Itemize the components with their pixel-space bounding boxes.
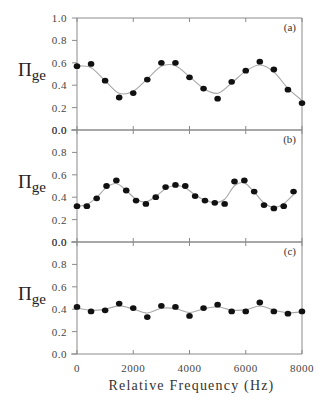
data-point — [202, 198, 209, 204]
data-point — [200, 86, 207, 92]
data-point — [221, 201, 228, 207]
data-point — [228, 309, 235, 315]
data-point — [242, 309, 249, 315]
data-point — [162, 184, 169, 190]
data-point — [261, 202, 268, 208]
y-tick-label: 0.4 — [52, 303, 67, 315]
panel-label: (a) — [284, 21, 297, 34]
panel-label: (b) — [283, 133, 296, 146]
panel-c: 0.00.20.40.60.80.0Πge(c) — [18, 236, 305, 360]
data-point — [299, 309, 306, 315]
y-tick-label: 0.0 — [52, 348, 67, 360]
data-point — [290, 189, 297, 195]
data-point — [182, 183, 189, 189]
fit-curve — [77, 64, 302, 100]
y-tick-label: 0.8 — [52, 34, 67, 46]
data-point — [200, 305, 207, 311]
y-tick-label: 0.2 — [52, 326, 67, 338]
data-point — [133, 198, 140, 204]
y-tick-label: 0.8 — [52, 258, 67, 270]
y-tick-label: 0.6 — [52, 281, 67, 293]
data-point — [172, 182, 179, 188]
data-point — [271, 309, 278, 315]
x-tick-label: 0 — [74, 362, 80, 374]
data-point — [93, 195, 100, 201]
data-point — [74, 203, 81, 209]
data-point — [271, 206, 278, 212]
data-point — [102, 78, 109, 84]
y-tick-label: 0.2 — [52, 214, 67, 226]
data-point — [242, 68, 249, 74]
x-tick-label: 2000 — [121, 362, 145, 374]
data-point — [214, 302, 221, 308]
data-point — [231, 179, 238, 185]
data-point — [299, 100, 306, 106]
data-point — [158, 303, 165, 309]
data-point — [74, 63, 81, 69]
data-point — [88, 61, 95, 67]
x-tick-label: 8000 — [290, 362, 314, 374]
y-tick-label: 0.6 — [52, 57, 67, 69]
data-point — [257, 300, 264, 306]
data-point — [143, 201, 150, 207]
chart-figure: 0.00.20.40.60.81.0Πge(a)0.00.20.40.60.80… — [0, 0, 329, 404]
data-point — [280, 203, 287, 209]
y-tick-label: 0.2 — [52, 102, 67, 114]
y-axis-title: Πge — [18, 59, 46, 83]
panel-label: (c) — [284, 245, 297, 258]
data-point — [172, 304, 179, 310]
data-point — [251, 189, 258, 195]
data-point — [74, 304, 81, 310]
data-point — [192, 193, 199, 199]
data-point — [102, 307, 109, 313]
data-point — [144, 314, 151, 320]
x-tick-label: 6000 — [234, 362, 258, 374]
data-point — [116, 95, 123, 101]
panel-b: 0.00.20.40.60.80.0Πge(b) — [18, 124, 302, 248]
data-point — [285, 311, 292, 317]
y-tick-label: 0.6 — [52, 169, 67, 181]
y-tick-label: 0.4 — [52, 191, 67, 203]
data-point — [172, 60, 179, 66]
stacked-scatter-plot: 0.00.20.40.60.81.0Πge(a)0.00.20.40.60.80… — [0, 0, 329, 404]
data-point — [130, 305, 137, 311]
y-tick-label: 0.0 — [52, 236, 67, 248]
data-point — [113, 178, 120, 184]
data-point — [214, 96, 221, 102]
data-point — [285, 87, 292, 93]
data-point — [158, 60, 165, 66]
data-point — [130, 90, 137, 96]
y-axis-title: Πge — [18, 171, 46, 195]
y-tick-label: 1.0 — [52, 12, 67, 24]
data-point — [212, 200, 219, 206]
data-point — [88, 309, 95, 315]
y-tick-label: 0.8 — [52, 146, 67, 158]
data-point — [186, 74, 193, 80]
data-point — [103, 183, 110, 189]
x-axis-title: Relative Frequency (Hz) — [109, 378, 275, 394]
data-point — [257, 59, 264, 65]
data-point — [152, 194, 159, 200]
panel-a: 0.00.20.40.60.81.0Πge(a) — [18, 12, 305, 136]
data-point — [116, 301, 123, 307]
y-tick-label: 0.0 — [52, 124, 67, 136]
data-point — [123, 188, 130, 194]
data-point — [228, 79, 235, 85]
data-point — [84, 203, 91, 209]
data-point — [241, 178, 248, 184]
y-axis-title: Πge — [18, 283, 46, 307]
y-tick-label: 0.4 — [52, 79, 67, 91]
fit-curve — [77, 306, 302, 313]
data-point — [144, 77, 151, 83]
data-point — [271, 67, 278, 73]
data-point — [186, 313, 193, 319]
x-tick-label: 4000 — [178, 362, 202, 374]
